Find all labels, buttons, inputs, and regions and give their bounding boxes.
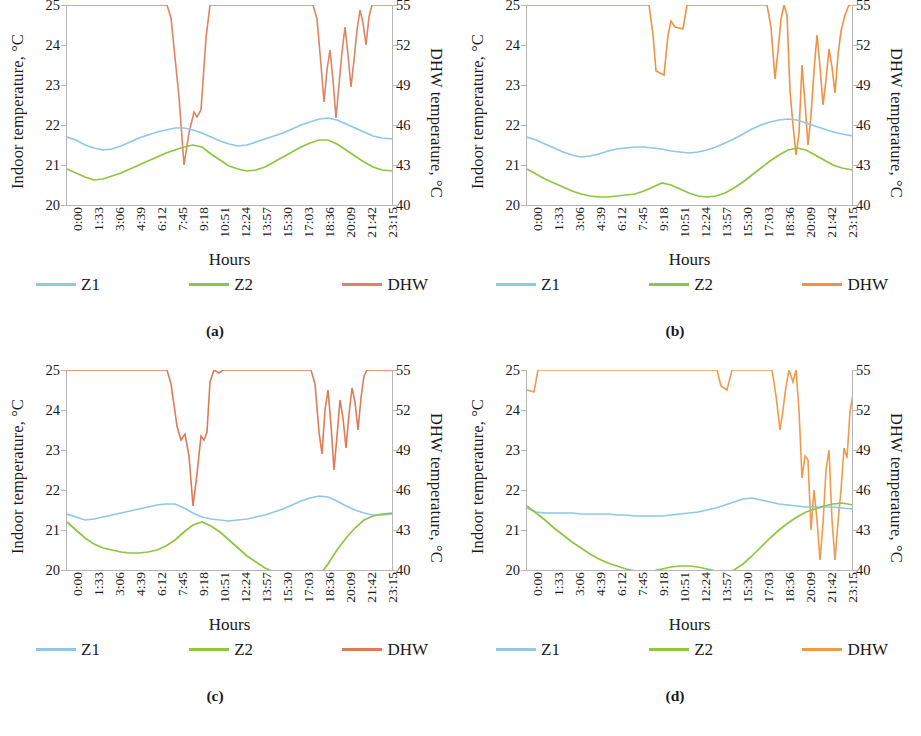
panel-a: Indoor temperature, °C 25 24 23 22 21 20… xyxy=(0,0,460,365)
y-axis-title-right-c: DHW temperature, °C xyxy=(424,383,448,593)
x-tick: 9:18 xyxy=(657,572,671,596)
y-tick-left: 24 xyxy=(506,403,521,418)
x-tick: 15:30 xyxy=(281,207,295,238)
y-tick-left: 22 xyxy=(46,118,61,133)
x-axis-title-b: Hours xyxy=(526,250,853,270)
series-line-z2-a xyxy=(67,140,393,180)
plot-svg-c xyxy=(67,370,393,570)
legend-swatch-z1-icon xyxy=(36,648,76,650)
x-tick: 6:12 xyxy=(615,572,629,596)
legend-item-dhw-a[interactable]: DHW xyxy=(342,276,428,293)
panel-b: Indoor temperature, °C 25 24 23 22 21 20… xyxy=(460,0,921,365)
legend-label-dhw: DHW xyxy=(847,276,888,293)
plot-area-b xyxy=(526,5,853,205)
y-tick-right: 46 xyxy=(396,118,411,133)
x-tick: 20:09 xyxy=(804,207,818,238)
legend-item-z1-c[interactable]: Z1 xyxy=(36,641,100,658)
y-axis-line-right-b xyxy=(852,5,853,206)
x-tick: 10:51 xyxy=(678,572,692,603)
legend-item-z1-d[interactable]: Z1 xyxy=(496,641,560,658)
x-tick: 3:06 xyxy=(573,207,587,231)
x-tick: 17:03 xyxy=(762,207,776,238)
y-tick-right: 55 xyxy=(856,0,871,12)
plot-area-a xyxy=(66,5,393,205)
y-axis-ticks-right-a: 55 52 49 46 43 40 xyxy=(396,0,424,210)
y-axis-title-right-b: DHW temperature, °C xyxy=(884,18,908,228)
x-tick: 23:15 xyxy=(386,572,400,603)
y-tick-left: 25 xyxy=(506,0,521,12)
x-tick: 15:30 xyxy=(741,207,755,238)
x-tick: 23:15 xyxy=(386,207,400,238)
legend-item-z2-d[interactable]: Z2 xyxy=(649,641,713,658)
legend-swatch-z2-icon xyxy=(649,283,689,285)
x-tick: 20:09 xyxy=(344,572,358,603)
legend-c: Z1 Z2 DHW xyxy=(36,641,428,658)
x-tick: 18:36 xyxy=(323,572,337,603)
x-tick: 12:24 xyxy=(699,572,713,603)
y-tick-left: 20 xyxy=(46,198,61,213)
legend-item-dhw-b[interactable]: DHW xyxy=(802,276,888,293)
x-tick: 6:12 xyxy=(615,207,629,231)
x-tick: 7:45 xyxy=(636,207,650,231)
x-tick: 13:57 xyxy=(720,572,734,603)
legend-item-z2-b[interactable]: Z2 xyxy=(649,276,713,293)
y-tick-left: 23 xyxy=(506,78,521,93)
x-axis-title-a: Hours xyxy=(66,250,393,270)
legend-label-z1: Z1 xyxy=(81,276,100,293)
y-tick-right: 55 xyxy=(396,0,411,12)
legend-item-z2-a[interactable]: Z2 xyxy=(189,276,253,293)
y-tick-left: 22 xyxy=(506,118,521,133)
y-tick-right: 46 xyxy=(396,483,411,498)
panel-c: Indoor temperature, °C 25 24 23 22 21 20… xyxy=(0,365,460,736)
x-tick: 3:06 xyxy=(113,572,127,596)
legend-a: Z1 Z2 DHW xyxy=(36,276,428,293)
y-tick-right: 55 xyxy=(396,363,411,378)
legend-label-dhw: DHW xyxy=(387,276,428,293)
y-tick-left: 23 xyxy=(46,443,61,458)
y-axis-line-right-d xyxy=(852,370,853,571)
legend-item-dhw-d[interactable]: DHW xyxy=(802,641,888,658)
panel-caption-b: (b) xyxy=(460,322,890,340)
y-tick-right: 46 xyxy=(856,118,871,133)
x-tick: 18:36 xyxy=(323,207,337,238)
y-tick-left: 22 xyxy=(506,483,521,498)
x-tick: 12:24 xyxy=(239,572,253,603)
x-tick: 6:12 xyxy=(155,207,169,231)
legend-label-z1: Z1 xyxy=(541,276,560,293)
x-tick: 0:00 xyxy=(71,207,85,231)
legend-label-z2: Z2 xyxy=(234,276,253,293)
legend-item-z1-b[interactable]: Z1 xyxy=(496,276,560,293)
series-line-z1-b xyxy=(527,119,853,157)
y-axis-title-right-a: DHW temperature, °C xyxy=(424,18,448,228)
x-tick: 12:24 xyxy=(699,207,713,238)
y-axis-title-left-d: Indoor temperature, °C xyxy=(466,377,490,577)
y-tick-left: 23 xyxy=(506,443,521,458)
y-tick-left: 20 xyxy=(46,563,61,578)
panel-d: Indoor temperature, °C 25 24 23 22 21 20… xyxy=(460,365,921,736)
legend-item-dhw-c[interactable]: DHW xyxy=(342,641,428,658)
legend-label-z2: Z2 xyxy=(234,641,253,658)
plot-area-c xyxy=(66,370,393,570)
x-axis-ticks-d: 0:00 1:33 3:06 4:39 6:12 7:45 9:18 10:51… xyxy=(526,572,853,616)
y-tick-left: 24 xyxy=(46,38,61,53)
legend-item-z2-c[interactable]: Z2 xyxy=(189,641,253,658)
figure-grid: Indoor temperature, °C 25 24 23 22 21 20… xyxy=(0,0,921,736)
y-tick-right: 43 xyxy=(856,158,871,173)
y-tick-right: 49 xyxy=(396,443,411,458)
legend-item-z1-a[interactable]: Z1 xyxy=(36,276,100,293)
legend-d: Z1 Z2 DHW xyxy=(496,641,888,658)
plot-area-d xyxy=(526,370,853,570)
x-tick: 4:39 xyxy=(134,207,148,231)
legend-label-z2: Z2 xyxy=(694,276,713,293)
series-line-dhw-b xyxy=(527,5,853,155)
x-tick: 0:00 xyxy=(531,572,545,596)
x-tick: 17:03 xyxy=(762,572,776,603)
x-tick: 17:03 xyxy=(302,207,316,238)
x-tick: 13:57 xyxy=(260,572,274,603)
x-axis-title-c: Hours xyxy=(66,615,393,635)
y-tick-right: 46 xyxy=(856,483,871,498)
x-axis-ticks-c: 0:00 1:33 3:06 4:39 6:12 7:45 9:18 10:51… xyxy=(66,572,393,616)
legend-swatch-z2-icon xyxy=(649,648,689,650)
x-tick: 4:39 xyxy=(594,572,608,596)
x-tick: 0:00 xyxy=(71,572,85,596)
